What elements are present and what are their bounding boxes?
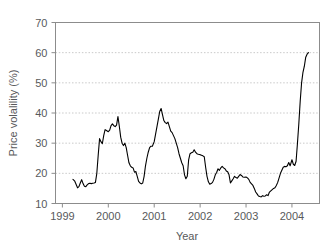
- x-tick-label-2000: 2000: [96, 210, 120, 222]
- y-tick-label-50: 50: [35, 77, 47, 89]
- y-tick-label-40: 40: [35, 107, 47, 119]
- y-tick-label-70: 70: [35, 17, 47, 29]
- y-tick-label-60: 60: [35, 47, 47, 59]
- y-tick-label-30: 30: [35, 137, 47, 149]
- y-axis-title: Price volalility (%): [7, 70, 19, 157]
- x-axis-title: Year: [176, 230, 199, 242]
- x-tick-label-2001: 2001: [142, 210, 166, 222]
- x-tick-label-2004: 2004: [280, 210, 304, 222]
- price-volatility-line-chart: 10203040506070 199920002001200220032004 …: [0, 0, 334, 248]
- y-tick-label-10: 10: [35, 198, 47, 210]
- figure-container: 10203040506070 199920002001200220032004 …: [0, 0, 334, 248]
- y-tick-label-20: 20: [35, 167, 47, 179]
- x-tick-label-1999: 1999: [50, 210, 74, 222]
- x-tick-label-2003: 2003: [234, 210, 258, 222]
- x-tick-label-2002: 2002: [188, 210, 212, 222]
